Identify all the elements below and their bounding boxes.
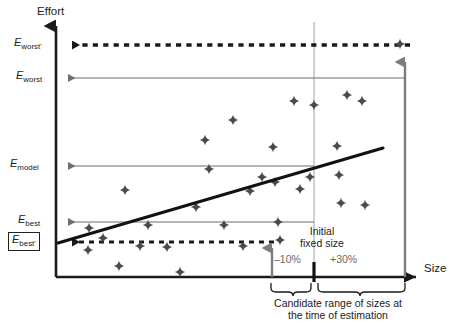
scatter-point	[268, 142, 278, 152]
y-tick-e-best-prime-sub: best'	[19, 239, 35, 248]
caption-line1: Candidate range of sizes at	[228, 298, 448, 309]
scatter-point	[332, 141, 342, 151]
x-axis-label: Size	[424, 262, 446, 274]
initial-fixed-size-line1: Initial	[292, 226, 352, 237]
initial-fixed-size-line2: fixed size	[286, 238, 358, 249]
caption-line2: the time of estimation	[228, 310, 448, 321]
y-tick-e-worst-prime-sub: worst'	[21, 42, 41, 51]
scatter-point	[114, 261, 124, 271]
scatter-point	[357, 96, 367, 106]
axis-lines	[56, 26, 416, 277]
scatter-point	[342, 90, 352, 100]
minus-10-brace	[271, 283, 311, 296]
scatter-point	[204, 164, 214, 174]
scatter-point	[289, 96, 299, 106]
minus-10-percent-label: –10%	[274, 254, 301, 265]
scatter-point	[219, 220, 229, 230]
scatter-point	[360, 200, 370, 210]
y-tick-e-model: Emodel	[10, 158, 39, 173]
y-tick-e-model-sub: model	[17, 163, 39, 172]
y-axis-label: Effort	[37, 5, 64, 17]
scatter-point	[120, 185, 130, 195]
scatter-point	[309, 100, 319, 110]
scatter-point	[83, 245, 93, 255]
scatter-point	[395, 39, 405, 49]
scatter-point	[200, 135, 210, 145]
scatter-point	[143, 220, 153, 230]
plus-30-percent-label: +30%	[330, 254, 357, 265]
y-tick-e-best-prime-boxed: Ebest'	[8, 232, 40, 251]
range-braces	[271, 283, 405, 296]
scatter-point	[275, 235, 285, 245]
chart-canvas	[0, 0, 457, 327]
y-tick-e-worst-prime: Eworst'	[14, 37, 42, 52]
scatter-point	[334, 170, 344, 180]
scatter-point	[175, 267, 185, 277]
scatter-point	[336, 198, 346, 208]
scatter-point	[228, 115, 238, 125]
scatter-point	[295, 184, 305, 194]
y-tick-e-best-sub: best	[25, 219, 40, 228]
y-tick-e-worst: Eworst	[16, 70, 42, 85]
scatter-point	[257, 172, 267, 182]
y-tick-e-best: Ebest	[18, 214, 40, 229]
y-tick-e-worst-sub: worst	[23, 75, 42, 84]
scatter-point	[273, 217, 283, 227]
plus-30-brace	[318, 283, 405, 296]
effort-vs-size-figure: Effort Size Eworst' Eworst Emodel Ebest …	[0, 0, 457, 327]
